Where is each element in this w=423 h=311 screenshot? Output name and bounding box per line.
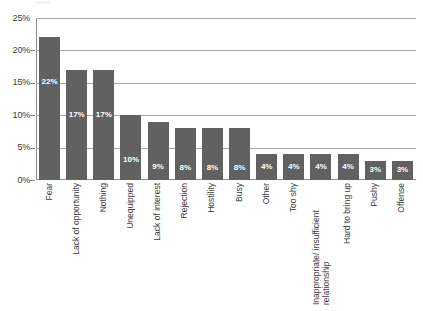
bar-value-label: 3%	[389, 166, 416, 174]
bar-value-label: 3%	[362, 166, 389, 174]
bar[interactable]	[175, 128, 196, 180]
y-tick-mark	[30, 180, 35, 181]
bar-value-label: 10%	[117, 156, 144, 164]
y-tick-label: 20%	[0, 46, 30, 55]
scan-artifact	[36, 1, 50, 4]
y-tick-label: 5%	[0, 143, 30, 152]
x-tick-label-slot: Unequipped	[117, 183, 144, 311]
x-tick-label: Nothing	[99, 183, 109, 212]
bar-slot: 22%	[36, 18, 63, 180]
bar[interactable]	[39, 37, 60, 180]
bar[interactable]	[229, 128, 250, 180]
x-tick-label: Busy	[235, 183, 245, 202]
x-tick-label: Hostility	[208, 183, 218, 213]
x-tick-label: Inappropriate/ insufficient relationship	[311, 183, 330, 305]
bar[interactable]	[202, 128, 223, 180]
bar-value-label: 8%	[199, 164, 226, 172]
bars: 22%17%17%10%9%8%8%8%4%4%4%4%3%3%	[36, 18, 416, 180]
x-tick-label: Lack of opportunity	[72, 183, 82, 255]
x-tick-label: Hard to bring up	[343, 183, 353, 244]
x-tick-label: Pushy	[371, 183, 381, 207]
bar[interactable]	[120, 115, 141, 180]
y-tick-label: 15%	[0, 78, 30, 87]
bar-slot: 17%	[63, 18, 90, 180]
y-tick-label: 0%	[0, 176, 30, 185]
x-tick-label: Lack of interest	[153, 183, 163, 241]
bar-slot: 8%	[226, 18, 253, 180]
y-axis: 0%5%10%15%20%25%	[0, 0, 34, 311]
bar-value-label: 17%	[90, 111, 117, 119]
bar-slot: 17%	[90, 18, 117, 180]
bar[interactable]	[66, 70, 87, 180]
y-tick-label: 10%	[0, 111, 30, 120]
bar-value-label: 17%	[63, 111, 90, 119]
bar-chart: 0%5%10%15%20%25% 22%17%17%10%9%8%8%8%4%4…	[0, 0, 423, 311]
x-tick-label: Rejection	[181, 183, 191, 218]
x-tick-label-slot: Hard to bring up	[335, 183, 362, 311]
x-tick-label: Fear	[45, 183, 55, 200]
bar-slot: 9%	[145, 18, 172, 180]
x-tick-label-slot: Other	[253, 183, 280, 311]
bar-slot: 4%	[253, 18, 280, 180]
y-tick-mark	[30, 83, 35, 84]
x-tick-label: Too shy	[289, 183, 299, 212]
x-tick-label: Offense	[398, 183, 408, 213]
bar-slot: 3%	[389, 18, 416, 180]
bar-slot: 8%	[199, 18, 226, 180]
x-tick-label-slot: Nothing	[90, 183, 117, 311]
x-tick-label-slot: Hostility	[199, 183, 226, 311]
x-tick-label-slot: Lack of opportunity	[63, 183, 90, 311]
bar[interactable]	[148, 122, 169, 180]
plot-area: 22%17%17%10%9%8%8%8%4%4%4%4%3%3%	[36, 18, 416, 180]
bar-slot: 4%	[307, 18, 334, 180]
bar-value-label: 9%	[145, 163, 172, 171]
bar-value-label: 8%	[172, 164, 199, 172]
x-tick-label: Unequipped	[126, 183, 136, 229]
x-tick-label-slot: Fear	[36, 183, 63, 311]
bar-value-label: 8%	[226, 164, 253, 172]
x-tick-label-slot: Pushy	[362, 183, 389, 311]
bar-slot: 10%	[117, 18, 144, 180]
bar-slot: 8%	[172, 18, 199, 180]
x-tick-label: Other	[262, 183, 272, 204]
x-tick-label-slot: Busy	[226, 183, 253, 311]
x-tick-label-slot: Offense	[389, 183, 416, 311]
bar[interactable]	[93, 70, 114, 180]
bar-slot: 4%	[280, 18, 307, 180]
bar-value-label: 4%	[280, 163, 307, 171]
bar-value-label: 22%	[36, 78, 63, 86]
bar-slot: 3%	[362, 18, 389, 180]
bar-slot: 4%	[335, 18, 362, 180]
bar-value-label: 4%	[253, 163, 280, 171]
bar-value-label: 4%	[335, 163, 362, 171]
y-tick-mark	[30, 50, 35, 51]
x-tick-label-slot: Too shy	[280, 183, 307, 311]
x-axis: FearLack of opportunityNothingUnequipped…	[36, 183, 416, 311]
y-tick-mark	[30, 115, 35, 116]
x-tick-label-slot: Inappropriate/ insufficient relationship	[307, 183, 334, 311]
x-tick-label-slot: Lack of interest	[145, 183, 172, 311]
x-tick-label-slot: Rejection	[172, 183, 199, 311]
y-tick-mark	[30, 148, 35, 149]
y-tick-label: 25%	[0, 14, 30, 23]
bar-value-label: 4%	[307, 163, 334, 171]
